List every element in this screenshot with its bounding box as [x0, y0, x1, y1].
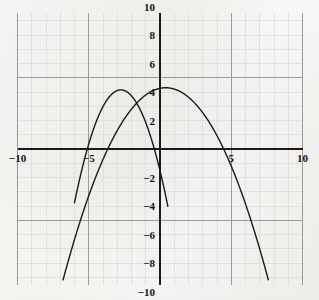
x-axis-tick-labels: −10−5510: [9, 152, 309, 164]
y-tick-label: −4: [143, 200, 155, 212]
graph-figure: −10−5510 108642−2−4−6−8−10: [0, 0, 319, 300]
y-tick-label: 10: [144, 1, 156, 13]
y-tick-label: −10: [138, 286, 156, 298]
y-tick-label: 2: [150, 115, 156, 127]
x-tick-label: −10: [9, 152, 27, 164]
curve-right-parabola: [63, 88, 268, 280]
plotted-curves: [63, 88, 268, 280]
coordinate-plane: −10−5510 108642−2−4−6−8−10: [0, 0, 319, 300]
x-tick-label: 10: [297, 152, 309, 164]
y-tick-label: 6: [150, 58, 156, 70]
axis-lines: [18, 13, 303, 285]
y-tick-label: 8: [150, 29, 156, 41]
y-tick-label: −2: [143, 172, 155, 184]
y-tick-label: −6: [143, 229, 155, 241]
y-tick-label: −8: [143, 257, 155, 269]
